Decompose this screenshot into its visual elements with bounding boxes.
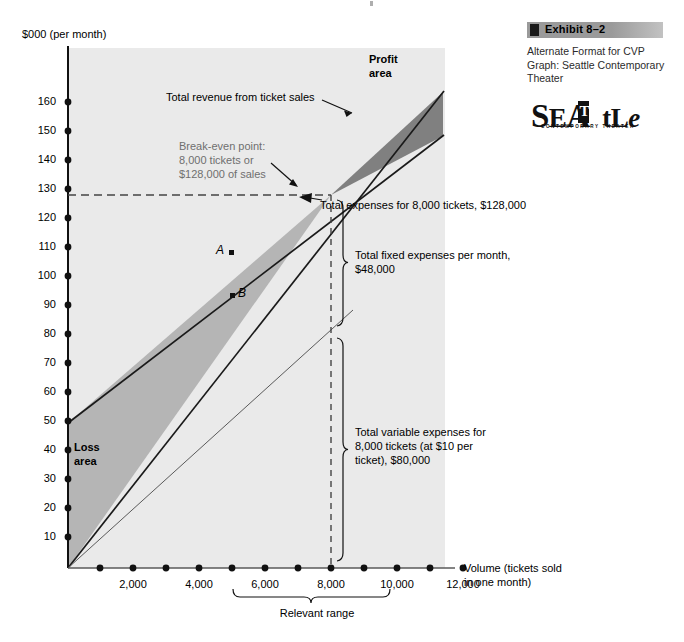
loss-area-label: Loss area (74, 440, 124, 468)
fixed-expenses-brace (337, 200, 348, 326)
data-point-b (230, 293, 235, 298)
loss-area-label-line2: area (74, 454, 124, 468)
variable-expenses-annotation: Total variable expenses for 8,000 ticket… (355, 425, 520, 467)
y-tick-label-40: 40 (24, 443, 56, 455)
break-even-annotation: Break-even point: 8,000 tickets or $128,… (179, 139, 319, 181)
variable-expenses-annotation-line3: ticket), $80,000 (355, 453, 520, 467)
variable-expenses-brace (337, 338, 348, 561)
profit-area-label-line2: area (369, 66, 429, 80)
break-even-annotation-line3: $128,000 of sales (179, 167, 319, 181)
y-tick-label-100: 100 (24, 269, 56, 281)
x-tick-label-6000: 6,000 (240, 578, 290, 590)
fixed-expenses-annotation: Total fixed expenses per month, $48,000 (355, 248, 545, 276)
plot-svg (0, 0, 684, 642)
profit-area-label-line1: Profit (369, 52, 429, 66)
y-tick-label-60: 60 (24, 385, 56, 397)
point-b-label: B (238, 286, 250, 300)
y-tick-label-50: 50 (24, 414, 56, 426)
relevant-range-brace (233, 589, 390, 603)
x-axis-label: Volume (tickets sold in one month) (464, 561, 594, 589)
point-a-label: A (216, 243, 228, 257)
x-tick-label-8000: 8,000 (306, 578, 356, 590)
x-tick-label-10000: 10,000 (372, 578, 422, 590)
relevant-range-label: Relevant range (262, 607, 372, 619)
total-expenses-annotation: Total expenses for 8,000 tickets, $128,0… (320, 198, 580, 212)
y-tick-label-90: 90 (24, 298, 56, 310)
profit-area-label: Profit area (369, 52, 429, 80)
y-tick-label-20: 20 (24, 501, 56, 513)
fixed-expenses-annotation-line2: $48,000 (355, 262, 545, 276)
total-revenue-annotation: Total revenue from ticket sales (166, 90, 336, 104)
y-tick-label-110: 110 (24, 240, 56, 252)
x-axis-label-line2: in one month) (464, 575, 594, 589)
data-point-a (229, 250, 234, 255)
y-tick-label-140: 140 (24, 153, 56, 165)
y-tick-label-130: 130 (24, 182, 56, 194)
y-tick-label-160: 160 (24, 95, 56, 107)
exhibit-page: Exhibit 8–2 Alternate Format for CVP Gra… (0, 0, 684, 642)
variable-expenses-annotation-line1: Total variable expenses for (355, 425, 520, 439)
loss-area-label-line1: Loss (74, 440, 124, 454)
y-tick-label-80: 80 (24, 327, 56, 339)
y-tick-label-30: 30 (24, 472, 56, 484)
y-tick-label-10: 10 (24, 530, 56, 542)
cvp-chart: $000 (per month) (0, 0, 684, 642)
x-tick-label-4000: 4,000 (174, 578, 224, 590)
y-tick-label-120: 120 (24, 211, 56, 223)
fixed-expenses-annotation-line1: Total fixed expenses per month, (355, 248, 545, 262)
x-tick-label-2000: 2,000 (108, 578, 158, 590)
y-tick-label-150: 150 (24, 124, 56, 136)
x-axis-label-line1: Volume (tickets sold (464, 561, 594, 575)
variable-expenses-annotation-line2: 8,000 tickets (at $10 per (355, 439, 520, 453)
break-even-annotation-line1: Break-even point: (179, 139, 319, 153)
break-even-annotation-line2: 8,000 tickets or (179, 153, 319, 167)
y-tick-label-70: 70 (24, 356, 56, 368)
